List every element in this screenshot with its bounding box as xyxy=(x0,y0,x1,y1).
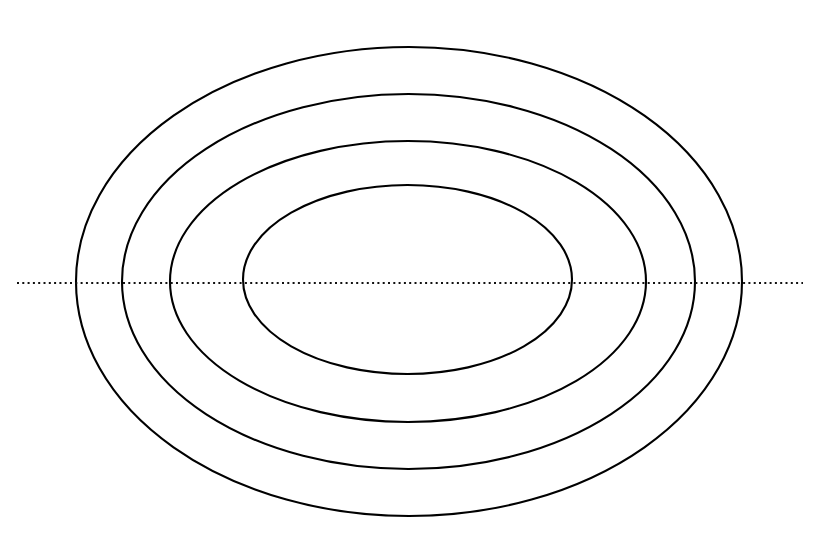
figure-canvas xyxy=(0,0,829,548)
ellipse-diagram xyxy=(0,0,829,548)
figure-background xyxy=(0,0,829,548)
